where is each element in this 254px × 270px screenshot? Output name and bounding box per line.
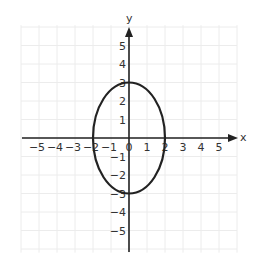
x-tick-label: −3: [65, 141, 81, 154]
x-tick-label: 4: [198, 141, 205, 154]
axes: x y: [22, 12, 247, 252]
x-tick-label: 0: [126, 141, 133, 154]
x-axis-label: x: [240, 131, 247, 144]
y-tick-label: 2: [119, 95, 126, 108]
y-tick-label: 5: [119, 40, 126, 53]
x-tick-label: 1: [144, 141, 151, 154]
ellipse-graph: x y −5−4−3−2−1012345−5−4−3−2−112345: [0, 0, 254, 270]
x-tick-label: 3: [180, 141, 187, 154]
x-tick-label: 5: [216, 141, 223, 154]
y-tick-label: −4: [110, 206, 126, 219]
y-tick-label: 4: [119, 58, 126, 71]
y-tick-label: −1: [110, 151, 126, 164]
x-tick-label: −5: [29, 141, 45, 154]
y-tick-label: −2: [110, 169, 126, 182]
y-axis-arrow-icon: [125, 27, 133, 37]
y-tick-label: −5: [110, 225, 126, 238]
x-tick-label: −2: [83, 141, 99, 154]
y-tick-label: 1: [119, 114, 126, 127]
y-axis-label: y: [126, 12, 133, 25]
x-tick-label: −4: [47, 141, 63, 154]
